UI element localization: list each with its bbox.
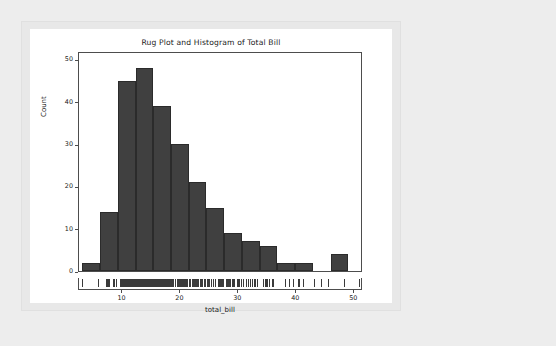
chart-title: Rug Plot and Histogram of Total Bill [30, 38, 392, 47]
x-tick-label: 50 [343, 294, 363, 302]
figure-panel: Rug Plot and Histogram of Total Bill Cou… [22, 22, 400, 310]
histogram-bar [224, 233, 242, 271]
rug-mark [239, 279, 240, 287]
x-axis-ticks: 1020304050 [78, 290, 362, 304]
rug-marks [79, 278, 361, 289]
x-tick-mark [353, 290, 354, 293]
histogram-bar [260, 246, 278, 271]
rug-mark [299, 279, 300, 287]
histogram-bar [153, 106, 171, 271]
y-tick-label: 20 [65, 182, 73, 190]
rug-mark [82, 279, 83, 287]
x-axis-label: total_bill [78, 306, 362, 314]
histogram-bar [242, 241, 260, 271]
y-axis-ticks: 01020304050 [30, 29, 78, 249]
rug-mark [234, 279, 235, 287]
histogram-bar [206, 208, 224, 271]
histogram-bars [79, 53, 361, 271]
rug-mark [233, 279, 234, 287]
rug-mark [257, 279, 258, 287]
x-tick-mark [295, 290, 296, 293]
x-tick-mark [179, 290, 180, 293]
rug-mark [269, 279, 270, 287]
y-tick-label: 30 [65, 140, 73, 148]
histogram-bar [136, 68, 154, 271]
histogram-bar [171, 144, 189, 271]
screenshot-canvas: Rug Plot and Histogram of Total Bill Cou… [0, 0, 556, 346]
rug-mark [321, 279, 322, 287]
histogram-bar [118, 81, 136, 271]
rug-mark [246, 279, 247, 287]
x-tick-label: 10 [111, 294, 131, 302]
histogram-bar [82, 263, 100, 271]
rug-mark [359, 279, 360, 287]
histogram-bar [331, 254, 349, 271]
rug-mark [285, 279, 286, 287]
rug-mark [215, 279, 216, 287]
rug-mark [116, 279, 117, 287]
rug-mark [314, 279, 315, 287]
rug-axes [78, 278, 362, 290]
y-tick-label: 10 [65, 225, 73, 233]
rug-mark [293, 279, 294, 287]
x-tick-label: 40 [285, 294, 305, 302]
x-tick-label: 20 [169, 294, 189, 302]
x-tick-mark [237, 290, 238, 293]
x-tick-mark [121, 290, 122, 293]
rug-mark [223, 279, 224, 287]
rug-mark [252, 279, 253, 287]
figure-background: Rug Plot and Histogram of Total Bill Cou… [30, 29, 392, 303]
plot-axes [78, 52, 362, 272]
histogram-bar [277, 263, 295, 271]
y-tick-label: 0 [69, 267, 73, 275]
rug-mark [289, 279, 290, 287]
rug-mark [202, 279, 203, 287]
rug-mark [344, 279, 345, 287]
rug-mark [208, 279, 209, 287]
x-tick-label: 30 [227, 294, 247, 302]
rug-mark [98, 279, 99, 287]
histogram-bar [295, 263, 313, 271]
rug-mark [211, 279, 212, 287]
rug-mark [303, 279, 304, 287]
rug-mark [328, 279, 329, 287]
rug-mark [273, 279, 274, 287]
histogram-bar [189, 182, 207, 271]
rug-mark [109, 279, 110, 287]
rug-mark [263, 279, 264, 287]
y-tick-label: 50 [65, 55, 73, 63]
rug-mark [243, 279, 244, 287]
y-tick-label: 40 [65, 98, 73, 106]
histogram-bar [100, 212, 118, 271]
